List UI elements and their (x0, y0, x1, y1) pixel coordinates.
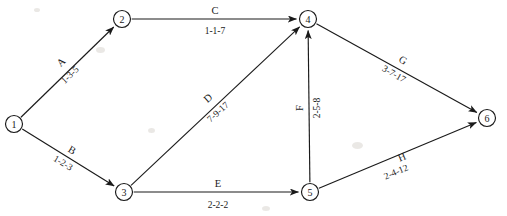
pert-network-diagram: 123456 A1-3-5B1-2-3C1-1-7D7-9-17E2-2-2F2… (0, 0, 507, 216)
edge-label-c: C (211, 5, 218, 16)
node-label-6: 6 (485, 113, 490, 124)
node-4: 4 (300, 11, 317, 28)
edge-estimates-f: 2-5-8 (312, 97, 322, 118)
edge-label-g: G (397, 53, 409, 67)
edge-g (316, 24, 476, 113)
node-label-5: 5 (308, 187, 313, 198)
node-3: 3 (116, 184, 133, 201)
edge-label-b: B (66, 143, 78, 156)
edge-label-f: F (294, 105, 305, 111)
edge-label-d: D (201, 91, 214, 105)
edges-layer (21, 19, 477, 192)
node-label-4: 4 (306, 14, 311, 25)
edge-label-e: E (215, 178, 221, 189)
nodes-layer: 123456 (6, 11, 496, 201)
node-label-3: 3 (122, 187, 127, 198)
edge-b (22, 129, 114, 186)
node-label-1: 1 (12, 119, 17, 130)
edge-estimates-e: 2-2-2 (208, 200, 229, 210)
edge-estimates-h: 2-4-12 (382, 162, 409, 181)
node-2: 2 (114, 11, 131, 28)
edge-estimates-c: 1-1-7 (205, 26, 226, 36)
edge-label-a: A (54, 55, 67, 68)
node-1: 1 (6, 116, 23, 133)
node-6: 6 (479, 110, 496, 127)
node-5: 5 (302, 184, 319, 201)
edge-f (308, 30, 310, 182)
edge-estimates-b: 1-2-3 (52, 153, 75, 172)
node-label-2: 2 (120, 14, 125, 25)
edge-d (131, 27, 300, 185)
network-canvas: 123456 A1-3-5B1-2-3C1-1-7D7-9-17E2-2-2F2… (0, 0, 507, 216)
